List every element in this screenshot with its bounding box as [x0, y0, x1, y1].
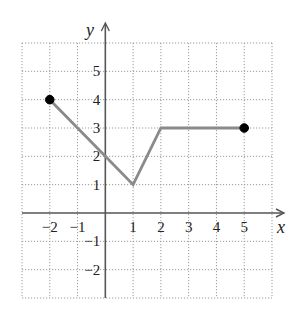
- y-tick-label: 3: [93, 120, 101, 136]
- x-tick-label: 4: [213, 219, 221, 235]
- y-tick-label: 5: [93, 63, 101, 79]
- y-tick-label: 4: [93, 92, 101, 108]
- x-tick-label: 3: [185, 219, 193, 235]
- coordinate-plot: −2−112345−2−112345 x y: [0, 0, 295, 316]
- grid: [22, 43, 272, 298]
- endpoint-dot: [45, 95, 54, 104]
- x-tick-label: 1: [129, 219, 137, 235]
- graph-line: [50, 100, 244, 185]
- x-tick-label: −2: [42, 219, 58, 235]
- y-tick-label: −1: [84, 233, 100, 249]
- y-tick-label: 1: [93, 177, 101, 193]
- y-tick-label: −2: [84, 262, 100, 278]
- x-tick-label: −1: [70, 219, 86, 235]
- tick-labels: −2−112345−2−112345: [42, 63, 248, 277]
- data-series: [45, 95, 248, 184]
- x-axis-label: x: [276, 217, 285, 237]
- endpoint-dot: [240, 124, 249, 133]
- x-tick-label: 2: [157, 219, 165, 235]
- y-axis-label: y: [84, 20, 94, 40]
- chart-svg: −2−112345−2−112345 x y: [0, 0, 295, 316]
- x-tick-label: 5: [240, 219, 248, 235]
